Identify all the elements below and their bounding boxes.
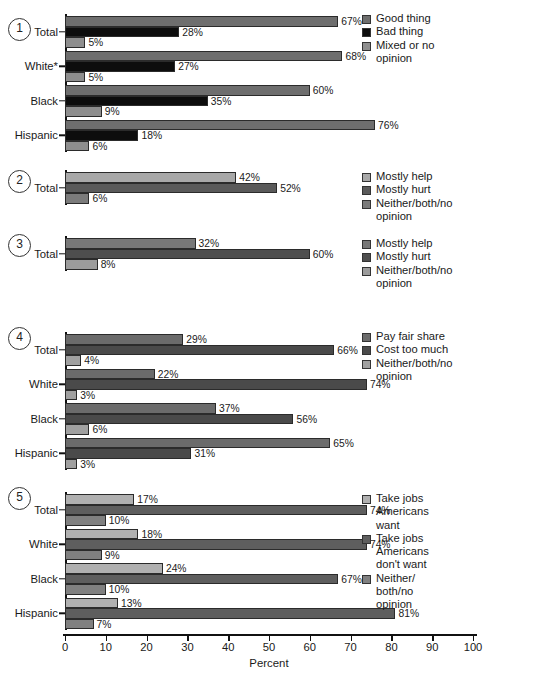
legend-label: Neither/both/no opinion xyxy=(376,264,453,291)
category-label: Black xyxy=(30,573,58,585)
bar-value-label: 9% xyxy=(105,549,120,560)
bar-value-label: 24% xyxy=(166,563,187,574)
bar-value-label: 6% xyxy=(92,424,107,435)
bar-value-label: 67% xyxy=(341,573,362,584)
bar-3-0-2 xyxy=(65,259,98,270)
bar-1-0-0 xyxy=(65,16,338,27)
bar-4-3-0 xyxy=(65,438,330,449)
legend-label: Take jobs Americans don't want xyxy=(376,532,429,572)
bar-1-2-2 xyxy=(65,106,102,117)
bar-value-label: 37% xyxy=(219,403,240,414)
bar-value-label: 52% xyxy=(280,182,301,193)
bar-value-label: 4% xyxy=(84,355,99,366)
bar-value-label: 5% xyxy=(88,71,103,82)
category-label: Black xyxy=(30,95,58,107)
legend-item[interactable]: Mostly hurt xyxy=(362,183,547,196)
category-label: White* xyxy=(25,60,58,72)
bar-4-1-2 xyxy=(65,390,77,401)
legend-item[interactable]: Good thing xyxy=(362,12,547,25)
legend-item[interactable]: Pay fair share xyxy=(362,330,547,343)
legend-item[interactable]: Neither/both/no opinion xyxy=(362,197,547,224)
bar-4-2-2 xyxy=(65,424,89,435)
legend-item[interactable]: Mostly help xyxy=(362,170,547,183)
x-axis-tick-label: 0 xyxy=(62,641,68,653)
bar-value-label: 17% xyxy=(137,494,158,505)
bar-5-0-1 xyxy=(65,505,367,516)
category-label: Black xyxy=(30,413,58,425)
legend-item[interactable]: Mostly hurt xyxy=(362,250,547,263)
legend-swatch-icon xyxy=(362,346,371,355)
x-axis-title: Percent xyxy=(249,657,288,669)
bar-1-3-1 xyxy=(65,130,138,141)
bar-5-1-0 xyxy=(65,529,138,540)
category-label: Hispanic xyxy=(15,129,58,141)
legend-label: Neither/ both/no opinion xyxy=(376,572,415,612)
bar-2-0-0 xyxy=(65,172,236,183)
chart-figure: 1Total67%28%5%White*68%27%5%Black60%35%9… xyxy=(0,0,551,686)
bar-value-label: 76% xyxy=(378,119,399,130)
panel-number-5: 5 xyxy=(8,487,31,510)
x-axis-tick-label: 40 xyxy=(222,641,234,653)
category-label: Total xyxy=(34,182,58,194)
legend-swatch-icon xyxy=(362,253,371,262)
panel-number-2: 2 xyxy=(8,170,31,193)
legend-label: Mixed or no opinion xyxy=(376,39,434,66)
x-axis-tick-label: 20 xyxy=(140,641,152,653)
legend-swatch-icon xyxy=(362,186,371,195)
bar-value-label: 7% xyxy=(97,618,112,629)
bar-5-1-1 xyxy=(65,539,367,550)
legend-panel-3: Mostly helpMostly hurtNeither/both/no op… xyxy=(362,237,547,290)
bar-value-label: 29% xyxy=(186,334,207,345)
bar-1-2-0 xyxy=(65,85,310,96)
category-label: Total xyxy=(34,248,58,260)
legend-item[interactable]: Cost too much xyxy=(362,343,547,356)
bar-value-label: 6% xyxy=(92,140,107,151)
bar-1-1-0 xyxy=(65,51,342,62)
legend-swatch-icon xyxy=(362,240,371,249)
legend-item[interactable]: Take jobs Americans don't want xyxy=(362,532,547,572)
legend-item[interactable]: Neither/both/no opinion xyxy=(362,357,547,384)
category-label: Total xyxy=(34,26,58,38)
legend-item[interactable]: Neither/ both/no opinion xyxy=(362,572,547,612)
legend-label: Bad thing xyxy=(376,25,423,38)
bar-value-label: 66% xyxy=(337,344,358,355)
bar-value-label: 9% xyxy=(105,106,120,117)
bar-5-2-1 xyxy=(65,574,338,585)
bar-5-2-2 xyxy=(65,584,106,595)
panel-number-4: 4 xyxy=(8,327,31,350)
bar-value-label: 10% xyxy=(109,584,130,595)
x-axis-tick-label: 60 xyxy=(304,641,316,653)
bar-value-label: 10% xyxy=(109,515,130,526)
x-axis-tick-label: 10 xyxy=(100,641,112,653)
legend-panel-4: Pay fair shareCost too muchNeither/both/… xyxy=(362,330,547,383)
category-label: Hispanic xyxy=(15,447,58,459)
legend-label: Mostly help xyxy=(376,170,433,183)
bar-value-label: 42% xyxy=(239,172,260,183)
bar-value-label: 8% xyxy=(101,259,116,270)
bar-value-label: 22% xyxy=(158,368,179,379)
category-label: Hispanic xyxy=(15,607,58,619)
bar-1-2-1 xyxy=(65,96,208,107)
legend-label: Mostly hurt xyxy=(376,183,431,196)
bar-value-label: 5% xyxy=(88,37,103,48)
bar-3-0-1 xyxy=(65,249,310,260)
bar-5-3-2 xyxy=(65,619,94,630)
legend-swatch-icon xyxy=(362,535,371,544)
bar-4-1-1 xyxy=(65,379,367,390)
legend-item[interactable]: Mixed or no opinion xyxy=(362,39,547,66)
bar-4-0-0 xyxy=(65,334,183,345)
bar-value-label: 35% xyxy=(211,95,232,106)
bar-value-label: 18% xyxy=(141,130,162,141)
bar-4-0-1 xyxy=(65,345,334,356)
legend-swatch-icon xyxy=(362,495,371,504)
category-label: Total xyxy=(34,504,58,516)
legend-item[interactable]: Bad thing xyxy=(362,25,547,38)
bar-4-3-2 xyxy=(65,459,77,470)
legend-item[interactable]: Take jobs Americans want xyxy=(362,492,547,532)
x-axis-tick-label: 50 xyxy=(263,641,275,653)
bar-value-label: 32% xyxy=(199,238,220,249)
legend-swatch-icon xyxy=(362,360,371,369)
bar-value-label: 65% xyxy=(333,437,354,448)
legend-item[interactable]: Mostly help xyxy=(362,237,547,250)
legend-item[interactable]: Neither/both/no opinion xyxy=(362,264,547,291)
